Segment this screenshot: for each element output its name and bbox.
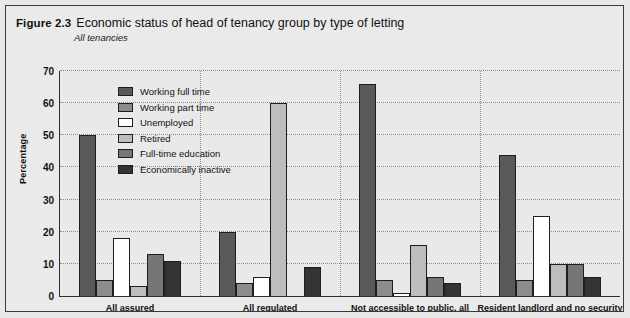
legend-label: Working part time: [140, 102, 214, 113]
y-axis-tick-label: 20: [43, 226, 54, 237]
bar: [164, 261, 181, 296]
figure-border-box: Figure 2.3Economic status of head of ten…: [5, 5, 624, 312]
y-axis-tick-label: 40: [43, 162, 54, 173]
bar: [533, 216, 550, 296]
figure-container: Figure 2.3Economic status of head of ten…: [0, 0, 630, 318]
legend-item: Retired: [118, 131, 231, 147]
y-axis-tick-label: 70: [43, 66, 54, 77]
y-axis-tick-label: 50: [43, 130, 54, 141]
legend-item: Full-time education: [118, 146, 231, 162]
bar: [410, 245, 427, 296]
x-axis-tick-label: All assured: [106, 303, 155, 312]
bar-group: Resident landlord and no security: [480, 71, 620, 296]
bar: [393, 293, 410, 296]
legend-swatch: [118, 87, 133, 96]
bar: [270, 103, 287, 296]
bar: [113, 238, 130, 296]
legend-swatch: [118, 134, 133, 143]
legend-swatch: [118, 118, 133, 127]
legend-item: Unemployed: [118, 115, 231, 131]
bar: [304, 267, 321, 296]
bar: [567, 264, 584, 296]
y-axis-title: Percentage: [18, 133, 28, 184]
bar: [376, 280, 393, 296]
plot-wrapper: Percentage 010203040506070 All assuredAl…: [6, 6, 623, 311]
bar: [427, 277, 444, 296]
x-axis-tick-label: All regulated: [243, 303, 298, 312]
bar: [444, 283, 461, 296]
legend-item: Economically inactive: [118, 162, 231, 178]
bar: [359, 84, 376, 296]
y-axis-tick-label: 30: [43, 194, 54, 205]
bar: [253, 277, 270, 296]
group-separator: [480, 71, 481, 296]
legend-swatch: [118, 165, 133, 174]
bar: [584, 277, 601, 296]
legend-label: Unemployed: [140, 117, 193, 128]
legend-label: Working full time: [140, 86, 210, 97]
legend-label: Retired: [140, 133, 171, 144]
bar: [79, 135, 96, 296]
bar: [550, 264, 567, 296]
bar: [499, 155, 516, 296]
bar: [219, 232, 236, 296]
bar: [96, 280, 113, 296]
chart-legend: Working full timeWorking part timeUnempl…: [118, 84, 231, 177]
legend-label: Full-time education: [140, 148, 220, 159]
bar: [236, 283, 253, 296]
y-axis-tick-label: 0: [48, 291, 54, 302]
legend-label: Economically inactive: [140, 164, 231, 175]
y-axis-tick-label: 10: [43, 258, 54, 269]
legend-item: Working full time: [118, 84, 231, 100]
bar-group: Not accessible to public, all: [340, 71, 480, 296]
bar: [147, 254, 164, 296]
legend-swatch: [118, 149, 133, 158]
bar: [516, 280, 533, 296]
bar: [130, 286, 147, 296]
legend-item: Working part time: [118, 100, 231, 116]
x-axis-tick-label: Not accessible to public, all: [351, 303, 469, 312]
y-axis-tick-label: 60: [43, 98, 54, 109]
group-separator: [340, 71, 341, 296]
x-axis-tick-label: Resident landlord and no security: [477, 303, 622, 312]
legend-swatch: [118, 103, 133, 112]
